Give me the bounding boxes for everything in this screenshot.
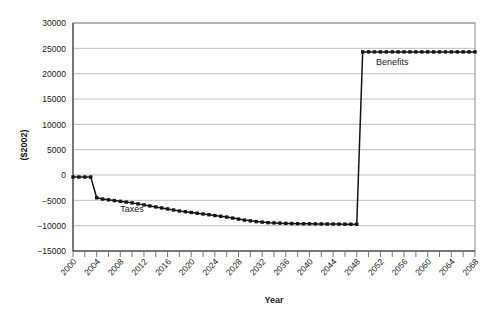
series-annotations: TaxesBenefits (120, 57, 409, 214)
series-marker (266, 221, 269, 224)
y-tick-label: 5000 (47, 145, 66, 155)
line-chart: 300002500020000150001000050000−5000−1000… (0, 0, 496, 317)
x-tick-label: 2048 (342, 256, 362, 277)
x-tick-label: 2044 (319, 256, 339, 277)
x-tick-label: 2032 (248, 256, 268, 277)
series-marker (213, 214, 216, 217)
series-marker (231, 216, 234, 219)
series-marker (373, 50, 376, 53)
y-axis-tick-labels: 300002500020000150001000050000−5000−1000… (37, 18, 66, 256)
x-tick-label: 2004 (82, 256, 102, 277)
series-marker (361, 50, 364, 53)
series-marker (414, 50, 417, 53)
series-annotation-label: Taxes (120, 204, 144, 214)
y-tick-label: 0 (61, 170, 66, 180)
series-marker (438, 50, 441, 53)
x-tick-label: 2024 (200, 256, 220, 277)
x-tick-label: 2008 (106, 256, 126, 277)
series-marker (119, 200, 122, 203)
series-marker (77, 175, 80, 178)
series-marker (260, 220, 263, 223)
x-tick-label: 2060 (413, 256, 433, 277)
series-marker (95, 196, 98, 199)
series-marker (225, 215, 228, 218)
x-tick-label: 2064 (437, 256, 457, 277)
plot-area-border (73, 23, 475, 251)
series-marker (337, 222, 340, 225)
series-marker (71, 175, 74, 178)
x-tick-label: 2016 (153, 256, 173, 277)
y-tick-label: 20000 (42, 69, 66, 79)
plot-frame (73, 23, 475, 251)
series-marker (243, 218, 246, 221)
series-marker (154, 205, 157, 208)
series-marker (420, 50, 423, 53)
series-marker (379, 50, 382, 53)
series-marker (308, 222, 311, 225)
series-marker (272, 221, 275, 224)
series-marker (343, 222, 346, 225)
series-marker (461, 50, 464, 53)
series-marker (190, 211, 193, 214)
series-marker (178, 209, 181, 212)
series-marker (450, 50, 453, 53)
series-marker (426, 50, 429, 53)
series-marker (432, 50, 435, 53)
x-tick-label: 2068 (460, 256, 480, 277)
x-tick-label: 2012 (129, 256, 149, 277)
series-marker (278, 221, 281, 224)
y-tick-label: 10000 (42, 120, 66, 130)
gridlines (73, 23, 475, 251)
series-marker (473, 50, 476, 53)
x-tick-label: 2000 (58, 256, 78, 277)
y-tick-label: 25000 (42, 44, 66, 54)
y-tick-label: 30000 (42, 18, 66, 28)
x-tick-label: 2056 (389, 256, 409, 277)
y-tick-label: 15000 (42, 94, 66, 104)
y-axis-title: ($2002) (19, 129, 29, 160)
series-marker (101, 197, 104, 200)
chart-container: 300002500020000150001000050000−5000−1000… (0, 0, 496, 317)
y-tick-label: −5000 (42, 196, 66, 206)
series-marker (444, 50, 447, 53)
series-marker (408, 50, 411, 53)
series-marker (207, 213, 210, 216)
series-marker (302, 222, 305, 225)
series-marker (148, 204, 151, 207)
x-tick-label: 2028 (224, 256, 244, 277)
series-marker (290, 222, 293, 225)
series-marker (83, 175, 86, 178)
series-marker (385, 50, 388, 53)
x-tick-label: 2040 (295, 256, 315, 277)
series-marker (349, 223, 352, 226)
x-axis-tick-labels: 2000200420082012201620202024202820322036… (58, 256, 480, 277)
series-marker (166, 207, 169, 210)
data-series (71, 50, 476, 226)
series-marker (89, 175, 92, 178)
y-tick-label: −15000 (37, 246, 66, 256)
x-tick-label: 2020 (177, 256, 197, 277)
series-marker (284, 222, 287, 225)
series-marker (113, 199, 116, 202)
series-marker (326, 222, 329, 225)
series-marker (160, 206, 163, 209)
series-marker (456, 50, 459, 53)
series-marker (184, 210, 187, 213)
series-marker (219, 215, 222, 218)
series-marker (249, 219, 252, 222)
series-marker (237, 217, 240, 220)
series-marker (314, 222, 317, 225)
series-marker (107, 198, 110, 201)
series-annotation-label: Benefits (376, 57, 409, 67)
x-axis-title: Year (264, 295, 284, 305)
series-marker (172, 208, 175, 211)
series-marker (296, 222, 299, 225)
x-tick-label: 2052 (366, 256, 386, 277)
series-marker (396, 50, 399, 53)
series-marker (467, 50, 470, 53)
series-marker (355, 223, 358, 226)
series-line (73, 52, 475, 224)
series-marker (320, 222, 323, 225)
x-tick-label: 2036 (271, 256, 291, 277)
series-marker (331, 222, 334, 225)
